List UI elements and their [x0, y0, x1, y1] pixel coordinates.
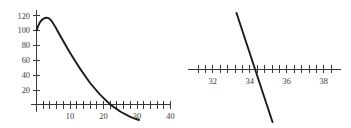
y-tick-label-80: 80	[22, 41, 30, 50]
y-tick-label-20: 20	[22, 86, 30, 95]
right-x-tick-labels: 32 34 36 38	[209, 77, 328, 86]
chart-panel-right: 32 34 36 38	[175, 0, 351, 128]
y-tick-label-100: 100	[17, 26, 30, 35]
x-tick-label-38: 38	[320, 77, 328, 86]
right-chart-svg: 32 34 36 38	[175, 0, 351, 128]
left-chart-svg: 20 40 60 80 100 120	[0, 0, 175, 128]
x-tick-label-40: 40	[166, 112, 174, 121]
right-chart-line	[237, 13, 273, 122]
left-y-tick-labels: 20 40 60 80 100 120	[17, 12, 30, 96]
x-tick-label-10: 10	[66, 112, 74, 121]
y-tick-label-40: 40	[22, 71, 30, 80]
figure-root: 20 40 60 80 100 120	[0, 0, 351, 128]
y-tick-label-120: 120	[17, 12, 30, 21]
x-tick-label-20: 20	[99, 112, 107, 121]
x-tick-label-32: 32	[209, 77, 217, 86]
chart-panel-left: 20 40 60 80 100 120	[0, 0, 175, 128]
left-x-tick-labels: 10 20 30 40	[66, 112, 175, 121]
y-tick-label-60: 60	[22, 56, 30, 65]
x-tick-label-36: 36	[283, 77, 291, 86]
x-tick-label-34: 34	[246, 77, 255, 86]
